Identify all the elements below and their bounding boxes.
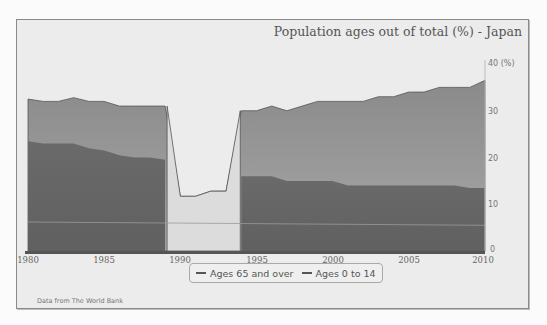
legend-item-ages-65-over[interactable]: Ages 65 and over: [196, 268, 294, 279]
y-tick-0: 0: [490, 245, 495, 254]
chart-frame: Population ages out of total (%) - Japan…: [16, 19, 529, 309]
legend-label: Ages 65 and over: [210, 268, 294, 279]
chart-legend: Ages 65 and over Ages 0 to 14: [189, 263, 383, 283]
x-tick-2005: 2005: [398, 255, 420, 265]
data-source-note: Data from The World Bank: [37, 297, 123, 305]
x-tick-2010: 2010: [472, 255, 494, 265]
legend-label: Ages 0 to 14: [316, 268, 376, 279]
x-axis-line: [25, 251, 485, 254]
y-tick-40: 40 (%): [488, 59, 515, 68]
y-tick-20: 20: [488, 154, 498, 163]
legend-swatch-icon: [196, 272, 206, 274]
x-tick-1980: 1980: [17, 255, 39, 265]
x-tick-1985: 1985: [93, 255, 115, 265]
legend-item-ages-0-14[interactable]: Ages 0 to 14: [302, 268, 376, 279]
area-series: [28, 80, 485, 251]
y-tick-30: 30: [488, 107, 498, 116]
legend-swatch-icon: [302, 272, 312, 274]
x-tick-1990: 1990: [169, 255, 191, 265]
y-tick-10: 10: [488, 200, 498, 209]
